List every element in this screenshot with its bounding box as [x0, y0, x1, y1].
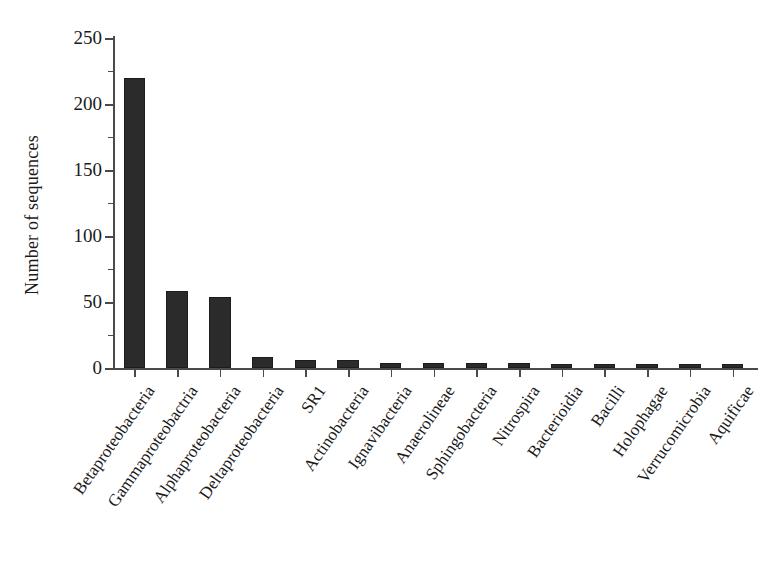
y-tick-label: 100	[74, 225, 103, 247]
x-tick-mark	[690, 368, 692, 377]
y-tick-mark	[108, 137, 113, 138]
y-tick-label: 0	[93, 357, 103, 379]
y-tick-mark	[108, 335, 113, 336]
y-tick-label: 150	[74, 159, 103, 181]
y-tick-mark	[105, 38, 113, 40]
x-tick-mark	[434, 368, 436, 377]
y-tick-mark	[105, 104, 113, 106]
x-tick-mark	[733, 368, 735, 377]
bar-chart-figure: Number of sequences 050100150200250 Beta…	[0, 0, 770, 578]
y-tick-mark	[108, 71, 113, 72]
y-tick-mark	[105, 170, 113, 172]
x-tick-mark	[562, 368, 564, 377]
y-axis-title: Number of sequences	[22, 45, 52, 385]
x-tick-mark	[519, 368, 521, 377]
y-tick-mark	[105, 236, 113, 238]
x-tick-label-text: Bacilli	[587, 382, 629, 431]
x-tick-mark	[348, 368, 350, 377]
y-tick-mark	[108, 269, 113, 270]
x-tick-mark	[604, 368, 606, 377]
y-tick-mark	[105, 302, 113, 304]
x-tick-mark	[476, 368, 478, 377]
x-tick-mark	[177, 368, 179, 377]
x-tick-mark	[647, 368, 649, 377]
bar	[124, 78, 145, 368]
x-tick-mark	[305, 368, 307, 377]
y-tick-label: 250	[74, 27, 103, 49]
x-tick-mark	[220, 368, 222, 377]
x-tick-label-text: SR1	[297, 382, 330, 417]
y-tick-mark	[108, 203, 113, 204]
x-tick-mark	[391, 368, 393, 377]
x-tick-mark	[263, 368, 265, 377]
y-tick-label: 50	[83, 291, 102, 313]
x-tick-mark	[134, 368, 136, 377]
y-tick-mark	[105, 368, 113, 370]
y-tick-label: 200	[74, 93, 103, 115]
